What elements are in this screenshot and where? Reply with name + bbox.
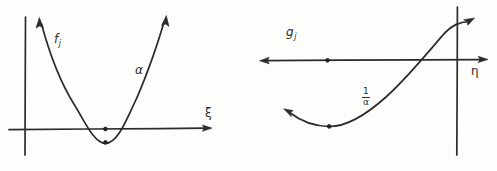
left-alpha-label: α: [135, 63, 143, 77]
right-curve-label: gj: [286, 25, 296, 41]
left-curve-label: fj: [54, 32, 61, 48]
right-curve-left-arrowhead: [284, 109, 294, 117]
right-rising-curve: [290, 22, 470, 127]
left-parabola-right-arrowhead: [162, 16, 169, 27]
fraction-numerator: 1: [362, 87, 370, 96]
left-vertical-axis: [25, 17, 26, 155]
right-one-over-alpha-label: 1 α: [362, 87, 370, 108]
fraction-denominator: α: [362, 98, 370, 107]
right-horizontal-axis: [266, 60, 481, 61]
right-axis-point: [326, 58, 330, 62]
right-curve-label-base: g: [286, 25, 294, 39]
right-curve-minimum-point: [327, 125, 331, 129]
left-axis-point: [104, 127, 108, 131]
figure-canvas: fj α ξ gj 1 α η: [0, 0, 497, 171]
right-curve-label-subscript: j: [294, 32, 297, 41]
hand-drawn-figure: [0, 0, 497, 171]
left-vertex-point: [104, 141, 108, 145]
right-vertical-axis: [457, 7, 458, 155]
left-xi-axis-label: ξ: [205, 106, 212, 120]
left-parabola-left-arrowhead: [36, 18, 43, 29]
left-curve-label-subscript: j: [58, 39, 61, 48]
left-panel: [9, 16, 212, 156]
right-eta-axis-label: η: [471, 64, 479, 78]
